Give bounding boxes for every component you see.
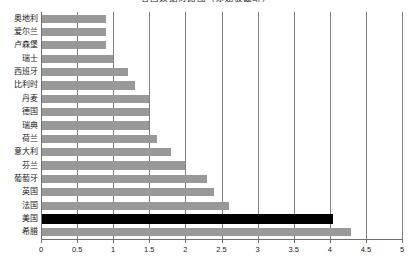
bar-row [41, 199, 402, 212]
plot-area [41, 12, 402, 239]
y-axis-tick-label: 法国 [0, 201, 38, 211]
x-axis-tick [185, 239, 186, 243]
bar [41, 41, 106, 49]
x-axis-tick-label: 1 [98, 245, 128, 254]
x-axis-tick [149, 239, 150, 243]
bar-row [41, 79, 402, 92]
x-axis-tick-label: 5 [387, 245, 412, 254]
bar [41, 121, 149, 129]
x-axis-tick [41, 239, 42, 243]
y-axis-tick-label: 芬兰 [0, 161, 38, 171]
y-axis-tick-label: 英国 [0, 187, 38, 197]
bar [41, 55, 113, 63]
x-axis-tick [222, 239, 223, 243]
bar [41, 175, 207, 183]
y-axis-tick-label: 意大利 [0, 147, 38, 157]
x-axis-tick-label: 2.5 [207, 245, 237, 254]
x-axis-tick-label: 3.5 [279, 245, 309, 254]
y-axis-tick-label: 荷兰 [0, 134, 38, 144]
y-axis-line [41, 12, 42, 240]
y-axis-tick-label: 西班牙 [0, 67, 38, 77]
y-axis-tick-label: 瑞士 [0, 54, 38, 64]
bar-row [41, 52, 402, 65]
bar-row [41, 25, 402, 38]
bar-highlight [41, 214, 333, 223]
bar-row [41, 159, 402, 172]
bar-row [41, 12, 402, 25]
bar-row [41, 39, 402, 52]
y-axis-tick-label: 爱尔兰 [0, 27, 38, 37]
x-axis-tick-label: 1.5 [134, 245, 164, 254]
bar-row [41, 212, 402, 225]
bar-row [41, 172, 402, 185]
gridline [402, 12, 403, 239]
y-axis-tick-label: 丹麦 [0, 94, 38, 104]
x-axis-tick [113, 239, 114, 243]
chart-title: 各国数据对比图（标题被截断） [0, 0, 412, 3]
bar [41, 148, 171, 156]
bar [41, 68, 128, 76]
bar-chart: 各国数据对比图（标题被截断） 奥地利爱尔兰卢森堡瑞士西班牙比利时丹麦德国瑞典荷兰… [0, 0, 412, 266]
bar-row [41, 105, 402, 118]
x-axis-tick [330, 239, 331, 243]
bar [41, 95, 149, 103]
bar-row [41, 146, 402, 159]
bar [41, 135, 157, 143]
bar [41, 188, 214, 196]
bar-row [41, 226, 402, 239]
bar-row [41, 132, 402, 145]
y-axis-tick-label: 比利时 [0, 80, 38, 90]
x-axis-tick [77, 239, 78, 243]
bar [41, 228, 351, 236]
x-axis-tick-label: 0 [26, 245, 56, 254]
bar [41, 28, 106, 36]
x-axis-tick-label: 3 [243, 245, 273, 254]
bar [41, 161, 185, 169]
bars-layer [41, 12, 402, 239]
bar-row [41, 119, 402, 132]
bar [41, 202, 229, 210]
y-axis-tick-label: 瑞典 [0, 121, 38, 131]
bar-row [41, 92, 402, 105]
x-axis-tick [402, 239, 403, 243]
y-axis-tick-label: 美国 [0, 214, 38, 224]
y-axis-tick-label: 卢森堡 [0, 40, 38, 50]
bar-row [41, 186, 402, 199]
bar [41, 15, 106, 23]
y-axis-tick-label: 葡萄牙 [0, 174, 38, 184]
x-axis-tick [294, 239, 295, 243]
y-axis-tick-label: 奥地利 [0, 14, 38, 24]
x-axis-tick [366, 239, 367, 243]
x-axis-tick-label: 0.5 [62, 245, 92, 254]
x-axis-tick-label: 4 [315, 245, 345, 254]
x-axis-tick [258, 239, 259, 243]
bar [41, 81, 135, 89]
y-axis-tick-label: 希腊 [0, 227, 38, 237]
bar [41, 108, 149, 116]
y-axis-tick-label: 德国 [0, 107, 38, 117]
bar-row [41, 65, 402, 78]
x-axis-tick-label: 4.5 [351, 245, 381, 254]
x-axis-tick-label: 2 [170, 245, 200, 254]
